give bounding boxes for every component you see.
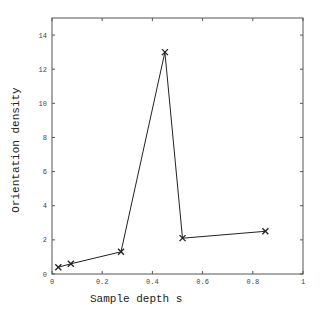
x-tick-label: 0.2 (96, 278, 109, 286)
x-tick-label: 1 (301, 278, 305, 286)
y-tick-label: 4 (43, 202, 47, 210)
plot-frame (52, 18, 303, 274)
x-axis-label: Sample depth s (90, 293, 182, 305)
axis-ticks (52, 18, 303, 274)
y-tick-label: 2 (43, 236, 47, 244)
data-line (58, 52, 265, 267)
y-tick-label: 12 (39, 66, 47, 74)
x-tick-label: 0.8 (246, 278, 259, 286)
axis-tick-labels: 00.20.40.60.8102468101214 (39, 32, 306, 286)
data-markers (55, 49, 268, 270)
x-tick-label: 0.4 (146, 278, 159, 286)
y-tick-label: 6 (43, 168, 47, 176)
y-tick-label: 8 (43, 134, 47, 142)
y-tick-label: 10 (39, 100, 47, 108)
y-tick-label: 14 (39, 32, 47, 40)
x-tick-label: 0 (50, 278, 54, 286)
x-tick-label: 0.6 (196, 278, 209, 286)
chart: 00.20.40.60.8102468101214 Sample depth s… (0, 0, 320, 320)
y-axis-label: Orientation density (10, 87, 22, 213)
y-tick-label: 0 (43, 271, 47, 279)
x-marker-icon (55, 264, 61, 270)
